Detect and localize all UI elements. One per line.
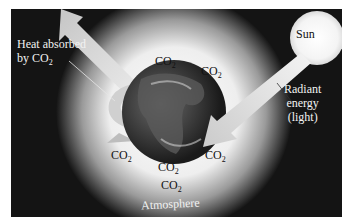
- co2-label-lower-left: CO2: [111, 149, 132, 166]
- radiant-line2: energy: [284, 96, 321, 110]
- heat-absorbed-line1: Heat absorbed: [17, 37, 86, 51]
- co2-label-bottom: CO2: [161, 179, 182, 196]
- heat-absorbed-line2: by CO2: [17, 51, 86, 70]
- radiant-line1: Radiant: [284, 82, 321, 96]
- radiant-energy-label: Radiant energy (light): [284, 82, 321, 124]
- radiant-line3: (light): [284, 110, 321, 124]
- co2-label-top: CO2: [155, 55, 176, 72]
- diagram-panel: Sun Heat absorbed by CO2 Radiant energy …: [11, 9, 342, 217]
- sun-label: Sun: [296, 28, 315, 41]
- co2-label-lower-middle: CO2: [158, 161, 179, 178]
- co2-label-upper-right: CO2: [201, 65, 222, 82]
- co2-label-lower-right: CO2: [205, 149, 226, 166]
- heat-absorbed-label: Heat absorbed by CO2: [17, 37, 86, 70]
